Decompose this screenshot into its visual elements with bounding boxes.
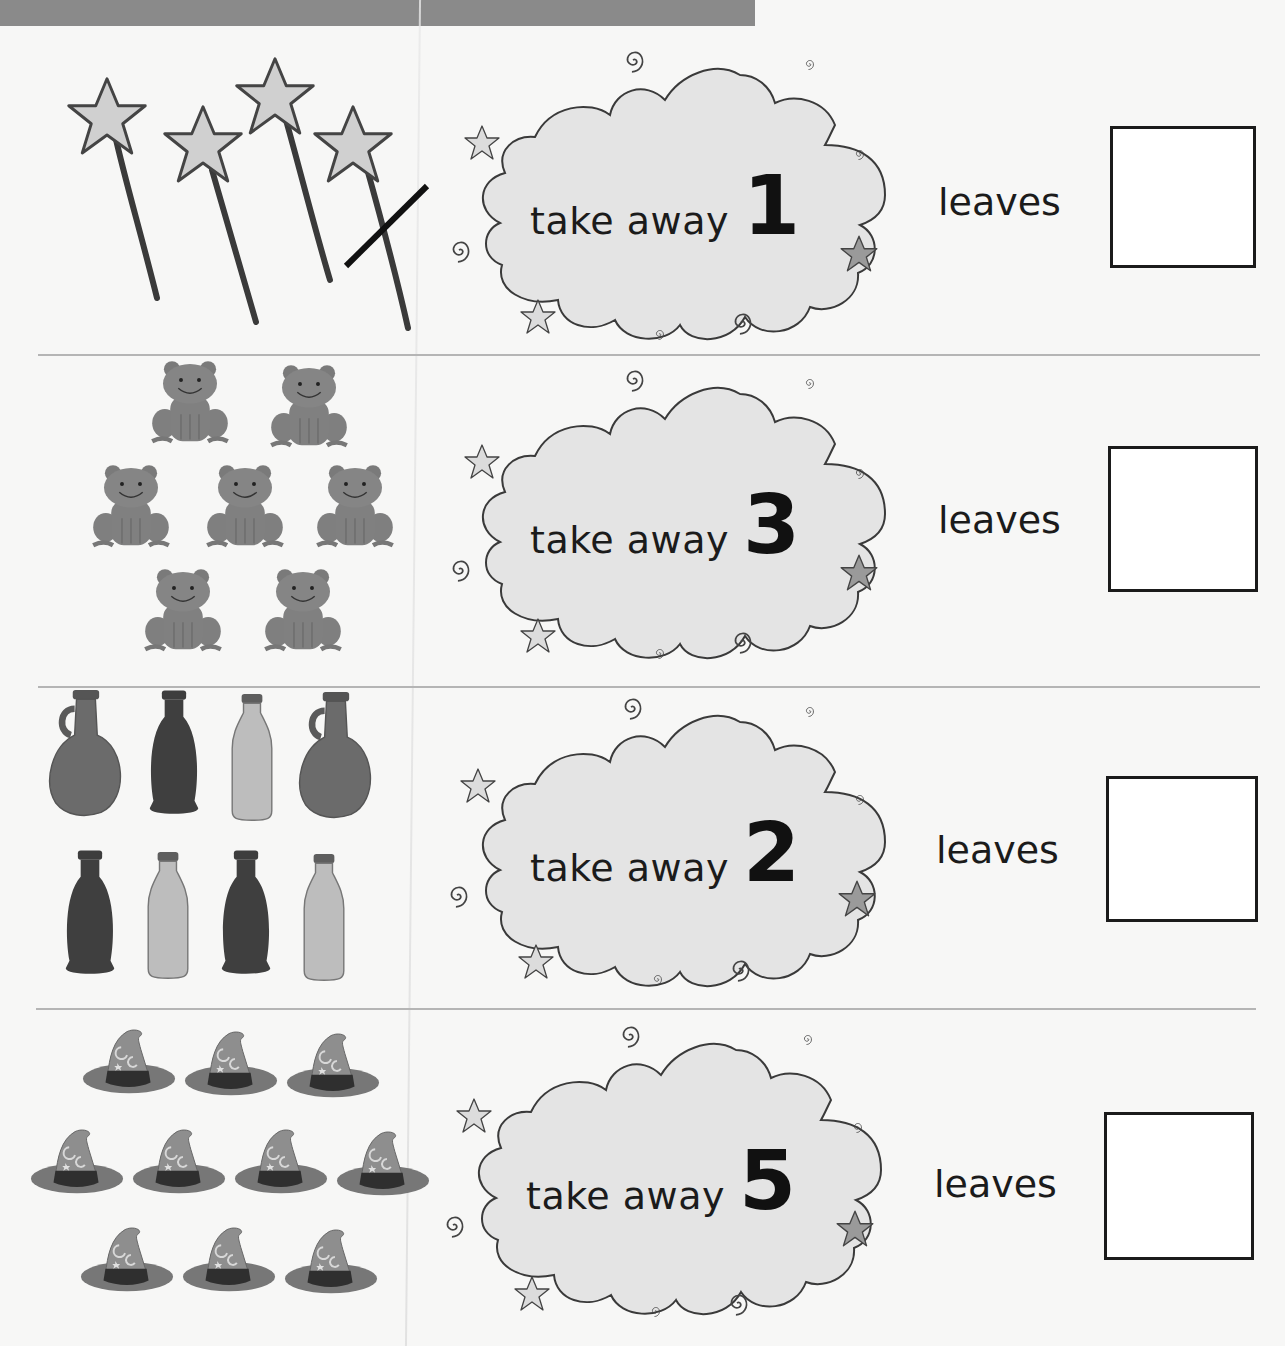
take-away-number: 3: [743, 484, 800, 566]
wand-icon: [69, 79, 157, 298]
milk-bottle-icon: [232, 694, 272, 820]
take-away-number: 5: [739, 1140, 796, 1222]
take-away-cloud: take away 1: [440, 45, 900, 365]
leaves-label: leaves: [936, 828, 1059, 872]
take-away-number: 1: [743, 165, 800, 247]
wizard-hat-icon: [183, 1228, 275, 1291]
dark-bottle-icon: [66, 851, 115, 974]
wand-icon: [165, 107, 256, 322]
answer-box-4[interactable]: [1104, 1112, 1254, 1260]
picture-group-wands: [0, 30, 440, 350]
header-bar: [0, 0, 755, 26]
wand-icon-group: [0, 30, 440, 350]
jug-icon: [50, 690, 121, 816]
take-away-cloud: take away 3: [440, 364, 900, 684]
wizard-hat-icon: [235, 1130, 327, 1193]
dark-bottle-icon: [150, 691, 199, 814]
answer-box-1[interactable]: [1110, 126, 1256, 268]
take-away-phrase: take away: [526, 1174, 725, 1218]
dark-bottle-icon: [222, 851, 271, 974]
frog-icon: [145, 569, 221, 649]
answer-box-3[interactable]: [1106, 776, 1258, 922]
question-row-3: take away 2 leaves: [0, 688, 1285, 1006]
cross-out-mark: [346, 186, 427, 266]
take-away-label: take away 2: [530, 812, 800, 894]
frog-icon: [152, 361, 228, 441]
answer-box-2[interactable]: [1108, 446, 1258, 592]
take-away-label: take away 5: [526, 1140, 796, 1222]
leaves-label: leaves: [938, 498, 1061, 542]
question-row-2: take away 3 leaves: [0, 356, 1285, 684]
wizard-hat-icon: [31, 1130, 123, 1193]
jug-icon: [300, 692, 371, 818]
frog-icon: [265, 569, 341, 649]
take-away-phrase: take away: [530, 199, 729, 243]
frog-icon: [93, 465, 169, 545]
take-away-cloud: take away 5: [436, 1020, 896, 1340]
take-away-label: take away 1: [530, 165, 800, 247]
frog-icon: [317, 465, 393, 545]
picture-group-bottles: [0, 688, 440, 1006]
milk-bottle-icon: [304, 854, 344, 980]
wizard-hat-icon: [83, 1030, 175, 1093]
take-away-phrase: take away: [530, 518, 729, 562]
frog-icon: [207, 465, 283, 545]
take-away-phrase: take away: [530, 846, 729, 890]
frog-icon: [271, 365, 347, 445]
leaves-label: leaves: [934, 1162, 1057, 1206]
question-row-1: take away 1 leaves: [0, 30, 1285, 350]
picture-group-frogs: [0, 356, 440, 684]
wizard-hat-icon: [81, 1228, 173, 1291]
picture-group-wizard-hats: [0, 1010, 440, 1346]
take-away-number: 2: [743, 812, 800, 894]
leaves-label: leaves: [938, 180, 1061, 224]
take-away-cloud: take away 2: [440, 692, 900, 1012]
take-away-label: take away 3: [530, 484, 800, 566]
wizard-hat-icon: [285, 1230, 377, 1293]
wizard-hat-icon: [133, 1130, 225, 1193]
wizard-hat-icon: [287, 1034, 379, 1097]
wizard-hat-icon: [337, 1132, 429, 1195]
question-row-4: take away 5 leaves: [0, 1010, 1285, 1346]
wand-icon: [237, 59, 330, 280]
milk-bottle-icon: [148, 852, 188, 978]
wizard-hat-icon: [185, 1032, 277, 1095]
